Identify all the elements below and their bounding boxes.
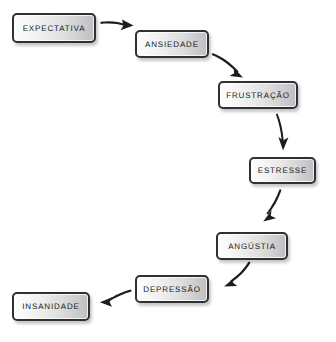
arrow-expectativa-ansiedade — [101, 19, 134, 30]
node-label: DEPRESSÃO — [143, 285, 200, 294]
arrow-frustracao-estresse — [276, 114, 289, 151]
node-estresse[interactable]: ESTRESSE — [249, 157, 316, 184]
node-angustia[interactable]: ANGÚSTIA — [216, 232, 288, 260]
arrow-depressao-insanidade — [100, 290, 132, 307]
node-label: ANGÚSTIA — [228, 242, 276, 251]
node-label: INSANIDADE — [22, 302, 79, 311]
node-frustracao[interactable]: FRUSTRAÇÃO — [218, 81, 298, 109]
node-depressao[interactable]: DEPRESSÃO — [135, 275, 209, 303]
flowchart-canvas: EXPECTATIVA ANSIEDADE FRUSTRAÇÃO ESTRESS… — [0, 0, 336, 342]
node-label: EXPECTATIVA — [23, 24, 86, 33]
node-expectativa[interactable]: EXPECTATIVA — [12, 13, 96, 43]
node-label: FRUSTRAÇÃO — [226, 91, 290, 100]
node-ansiedade[interactable]: ANSIEDADE — [135, 30, 209, 58]
node-label: ESTRESSE — [258, 166, 307, 175]
node-label: ANSIEDADE — [145, 40, 199, 49]
arrow-ansiedade-frustracao — [212, 53, 243, 78]
node-insanidade[interactable]: INSANIDADE — [12, 292, 90, 321]
arrow-estresse-angustia — [263, 189, 281, 221]
arrow-angustia-depressao — [224, 262, 251, 287]
